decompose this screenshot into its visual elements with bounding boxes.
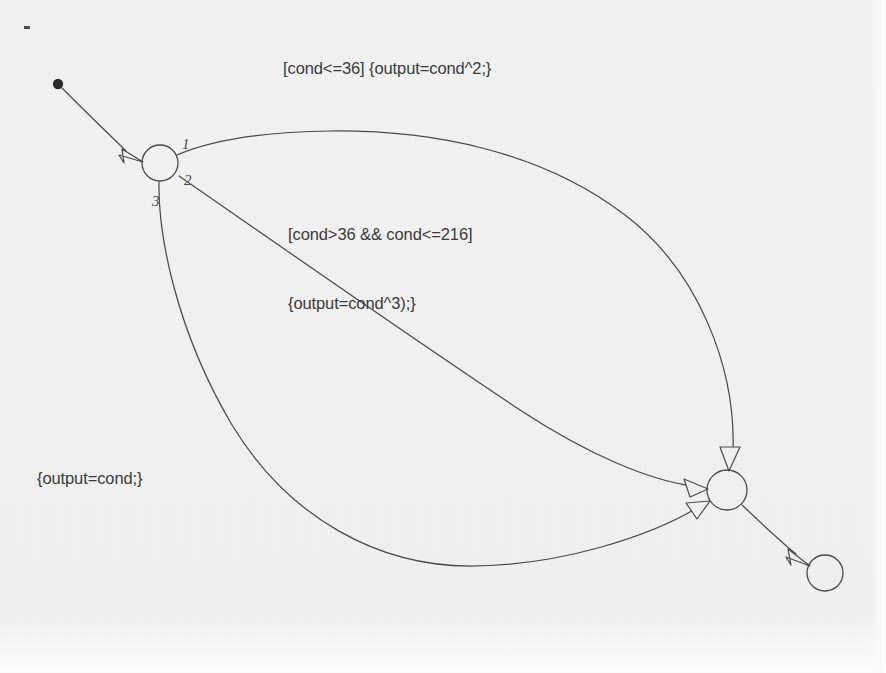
source-state[interactable] bbox=[142, 145, 178, 181]
transition-2-arrowhead bbox=[684, 479, 708, 497]
transition-1-arrowhead bbox=[720, 447, 740, 471]
guard-action-label-2: [cond>36 && cond<=216] {output=cond^3);} bbox=[288, 177, 473, 361]
initial-transition-path[interactable] bbox=[62, 88, 126, 151]
initial-transition-arrowhead bbox=[119, 149, 143, 163]
final-transition-path[interactable] bbox=[742, 505, 796, 554]
transition-3-arrowhead bbox=[686, 501, 710, 519]
guard-action-label-2-line-2: {output=cond^3);} bbox=[288, 292, 473, 315]
action-label-3: {output=cond;} bbox=[37, 467, 143, 490]
guard-action-label-2-line-1: [cond>36 && cond<=216] bbox=[288, 223, 473, 246]
branch-port-1: 1 bbox=[182, 136, 190, 153]
diagram-page: 1 2 3 [cond<=36] {output=cond^2;} [cond>… bbox=[0, 0, 886, 673]
final-state[interactable] bbox=[807, 555, 843, 591]
scan-speck bbox=[24, 26, 30, 29]
guard-action-label-1: [cond<=36] {output=cond^2;} bbox=[283, 57, 491, 80]
branch-port-2: 2 bbox=[184, 172, 192, 189]
branch-port-3: 3 bbox=[152, 193, 160, 210]
final-transition-arrowhead bbox=[786, 549, 810, 566]
initial-pseudostate[interactable] bbox=[53, 79, 63, 89]
target-state[interactable] bbox=[707, 470, 747, 510]
